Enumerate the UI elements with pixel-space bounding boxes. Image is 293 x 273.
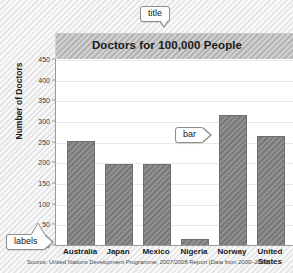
y-axis-tick-mark bbox=[52, 203, 55, 204]
bar-slot bbox=[140, 60, 174, 246]
chart-container: Doctors for 100,000 People bbox=[55, 33, 293, 246]
y-axis-tick-mark bbox=[52, 183, 55, 184]
y-axis-tick-label: 300 bbox=[38, 118, 50, 125]
bar-slot bbox=[64, 60, 98, 246]
y-axis-tick-mark bbox=[52, 79, 55, 80]
y-axis-tick-labels: 050100150200250300350400450 bbox=[26, 59, 53, 245]
bar bbox=[143, 164, 171, 246]
y-axis-tick-label: 250 bbox=[38, 138, 50, 145]
y-axis-tick-mark bbox=[52, 121, 55, 122]
source-note: Source: United Nations Development Progr… bbox=[27, 259, 270, 265]
y-axis-tick-mark bbox=[52, 100, 55, 101]
y-axis-tick-label: 200 bbox=[38, 159, 50, 166]
x-axis-line bbox=[55, 245, 293, 246]
y-axis-title: Number of Doctors bbox=[14, 46, 24, 156]
callout-labels: labels bbox=[6, 234, 46, 250]
plot-area bbox=[56, 60, 293, 246]
bar-slot bbox=[102, 60, 136, 246]
bar bbox=[219, 115, 247, 246]
bar-slot bbox=[216, 60, 250, 246]
y-axis-tick-label: 450 bbox=[38, 56, 50, 63]
bar bbox=[257, 136, 285, 246]
callout-title: title bbox=[140, 6, 170, 22]
y-axis-tick-mark bbox=[52, 59, 55, 60]
callout-labels-up-tail bbox=[30, 222, 46, 236]
bar-slot bbox=[254, 60, 288, 246]
bar bbox=[67, 141, 95, 246]
bar bbox=[105, 164, 133, 246]
y-axis-tick-label: 400 bbox=[38, 76, 50, 83]
bar-slot bbox=[178, 60, 212, 246]
y-axis-line bbox=[55, 59, 56, 246]
chart-title: Doctors for 100,000 People bbox=[56, 39, 278, 51]
y-axis-tick-label: 100 bbox=[38, 200, 50, 207]
y-axis-tick-label: 150 bbox=[38, 180, 50, 187]
callout-bar: bar bbox=[175, 127, 204, 143]
y-axis-tick-mark bbox=[52, 224, 55, 225]
bars-layer bbox=[56, 60, 293, 246]
y-axis-tick-mark bbox=[52, 141, 55, 142]
y-axis-tick-mark bbox=[52, 162, 55, 163]
y-axis-tick-label: 350 bbox=[38, 97, 50, 104]
